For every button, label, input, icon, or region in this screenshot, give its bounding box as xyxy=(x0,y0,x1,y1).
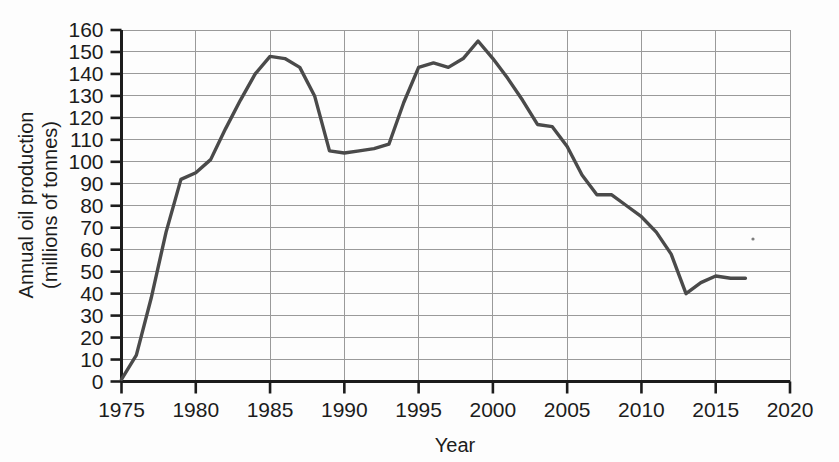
y-axis-tick-labels: 0102030405060708090100110120130140150160 xyxy=(68,18,103,393)
y-tick-label: 160 xyxy=(68,18,103,41)
x-tick-label: 1980 xyxy=(172,398,219,421)
chart-container: 0102030405060708090100110120130140150160… xyxy=(0,0,839,462)
y-tick-label: 70 xyxy=(80,216,103,239)
x-axis-title: Year xyxy=(435,434,476,456)
y-tick-label: 150 xyxy=(68,40,103,63)
x-tick-label: 2020 xyxy=(767,398,814,421)
x-tick-label: 2010 xyxy=(618,398,665,421)
y-tick-label: 60 xyxy=(80,238,103,261)
x-tick-label: 1975 xyxy=(98,398,145,421)
y-tick-label: 120 xyxy=(68,106,103,129)
x-axis-ticks xyxy=(122,382,791,394)
y-tick-label: 10 xyxy=(80,348,103,371)
y-tick-label: 0 xyxy=(92,370,104,393)
data-series-line xyxy=(122,41,746,379)
x-axis-tick-labels: 1975198019851990199520002005201020152020 xyxy=(98,398,813,421)
x-tick-label: 2005 xyxy=(544,398,591,421)
y-axis-title-line2: (millions of tonnes) xyxy=(39,121,61,289)
y-tick-label: 100 xyxy=(68,150,103,173)
x-tick-label: 1990 xyxy=(321,398,368,421)
scan-speck xyxy=(751,237,754,240)
y-tick-label: 140 xyxy=(68,62,103,85)
y-tick-label: 80 xyxy=(80,194,103,217)
line-chart: 0102030405060708090100110120130140150160… xyxy=(0,0,839,462)
y-tick-label: 50 xyxy=(80,260,103,283)
x-tick-label: 2000 xyxy=(470,398,517,421)
y-tick-label: 30 xyxy=(80,304,103,327)
y-tick-label: 40 xyxy=(80,282,103,305)
horizontal-gridlines xyxy=(122,30,791,360)
x-tick-label: 1985 xyxy=(247,398,294,421)
y-tick-label: 20 xyxy=(80,326,103,349)
x-tick-label: 1995 xyxy=(395,398,442,421)
y-tick-label: 110 xyxy=(70,128,103,151)
y-axis-title-line1: Annual oil production xyxy=(15,112,37,299)
y-tick-label: 130 xyxy=(68,84,103,107)
y-axis-ticks xyxy=(111,30,122,382)
y-tick-label: 90 xyxy=(80,172,103,195)
x-tick-label: 2015 xyxy=(692,398,739,421)
